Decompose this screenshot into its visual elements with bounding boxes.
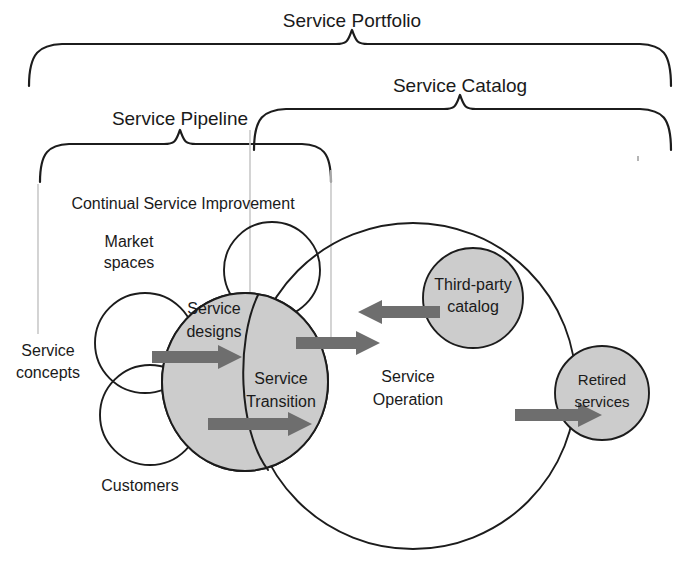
label-service-concepts: Service concepts (16, 342, 80, 381)
label-retired-services-line-2: services (574, 393, 629, 410)
label-service-concepts-line-1: Service (21, 342, 74, 359)
label-market-spaces-line-2: spaces (104, 254, 155, 271)
label-customers: Customers (101, 477, 178, 494)
brace-label-service-catalog: Service Catalog (393, 75, 527, 96)
label-third-party-catalog-line-1: Third-party (434, 276, 511, 293)
brace-label-service-portfolio: Service Portfolio (283, 10, 421, 31)
service-portfolio-diagram: Service Portfolio Service Catalog Servic… (0, 0, 684, 567)
diagram-canvas: Service Portfolio Service Catalog Servic… (0, 0, 684, 567)
label-service-transition-line-2: Transition (246, 393, 316, 410)
label-service-operation-line-1: Service (381, 368, 434, 385)
brace-path-service-portfolio (29, 30, 671, 86)
brace-path-service-pipeline (40, 130, 331, 182)
label-service-operation-line-2: Operation (373, 391, 443, 408)
label-service-transition-line-1: Service (254, 370, 307, 387)
scan-speck (637, 156, 639, 161)
brace-service-pipeline: Service Pipeline (40, 108, 331, 182)
label-service-designs-line-2: designs (186, 323, 241, 340)
brace-path-service-catalog (254, 95, 671, 150)
label-third-party-catalog-line-2: catalog (447, 298, 499, 315)
brace-label-service-pipeline: Service Pipeline (112, 108, 248, 129)
label-customers-text: Customers (101, 477, 178, 494)
label-market-spaces-line-1: Market (105, 233, 154, 250)
label-service-designs-line-1: Service (187, 300, 240, 317)
brace-service-catalog: Service Catalog (254, 75, 671, 150)
label-service-concepts-line-2: concepts (16, 364, 80, 381)
brace-service-portfolio: Service Portfolio (29, 10, 671, 86)
label-continual-service-improvement: Continual Service Improvement (71, 195, 295, 212)
label-retired-services-line-1: Retired (578, 371, 626, 388)
label-market-spaces: Market spaces (104, 233, 155, 271)
